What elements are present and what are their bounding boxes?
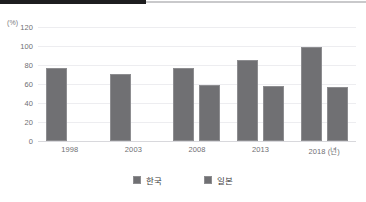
y-axis-tick-label: 40 <box>24 98 33 107</box>
top-dark-band <box>0 0 146 4</box>
bar <box>110 74 131 141</box>
y-axis-tick-label: 80 <box>24 60 33 69</box>
bar-chart-figure: (%) 120100806040200 19982003200820132018… <box>0 6 366 202</box>
legend-item[interactable]: 일본 <box>204 174 233 186</box>
y-axis-tick-label: 20 <box>24 118 33 127</box>
bar <box>263 86 284 141</box>
legend-swatch-icon <box>204 176 212 184</box>
chart-legend: 한국일본 <box>0 174 366 186</box>
x-axis-tick-labels: 19982003200820132018 (년) <box>38 145 356 156</box>
bar <box>199 85 220 141</box>
legend-label: 한국 <box>146 174 162 186</box>
bar <box>301 47 322 141</box>
y-axis-unit-label: (%) <box>7 19 18 26</box>
bar-group <box>165 27 229 141</box>
x-axis-tick-label: 1998 <box>38 145 102 156</box>
legend-item[interactable]: 한국 <box>133 174 162 186</box>
axis-baseline: 0 <box>38 141 356 142</box>
bar-group <box>102 27 166 141</box>
x-axis-tick-label: 2013 <box>229 145 293 156</box>
y-axis-tick-label: 120 <box>20 23 33 32</box>
x-axis-tick-label: 2018 (년) <box>292 145 356 156</box>
y-axis-tick-label: 0 <box>29 137 33 146</box>
bar <box>237 60 258 141</box>
top-light-band <box>146 1 366 3</box>
x-axis-tick-label: 2008 <box>165 145 229 156</box>
bar <box>46 68 67 141</box>
legend-swatch-icon <box>133 176 141 184</box>
bar <box>327 87 348 141</box>
bar-group <box>38 27 102 141</box>
bar-group <box>292 27 356 141</box>
y-axis-tick-label: 60 <box>24 80 33 89</box>
bar-group <box>229 27 293 141</box>
bar <box>173 68 194 141</box>
bar-groups <box>38 27 356 141</box>
y-axis-tick-label: 100 <box>20 41 33 50</box>
legend-label: 일본 <box>217 174 233 186</box>
x-axis-tick-label: 2003 <box>102 145 166 156</box>
